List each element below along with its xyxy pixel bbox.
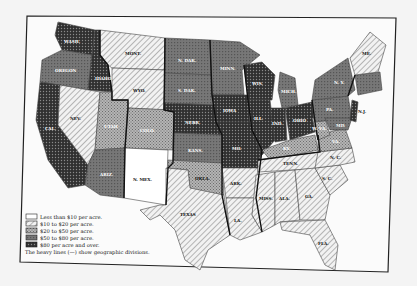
label-miss: MISS. (259, 196, 273, 201)
state-ndak[interactable] (165, 38, 212, 75)
label-tenn: TENN. (283, 161, 299, 166)
legend-swatch-c3 (26, 228, 37, 233)
label-sc: S. C. (322, 176, 333, 181)
label-nebr: NEBR. (185, 120, 201, 125)
label-va: VA. (331, 139, 340, 144)
legend-swatch-c1 (26, 214, 37, 219)
legend-note: The heavy lines (—) show geographic divi… (25, 249, 150, 256)
label-idaho: IDAHO (95, 76, 112, 81)
label-wva: W. VA. (311, 126, 327, 131)
label-iowa: IOWA (223, 108, 237, 113)
label-ind: IND. (272, 121, 283, 126)
legend-label-c4: $50 to $80 per acre. (40, 235, 94, 242)
label-fla: FLA. (318, 241, 329, 246)
legend-swatch-c5 (26, 242, 37, 247)
legend-label-c5: $80 per acre and over. (40, 242, 100, 249)
legend-label-c1: Less than $10 per acre. (40, 214, 103, 221)
label-wyo: WYO. (132, 88, 146, 93)
legend-label-c2: $10 to $20 per acre. (40, 221, 94, 228)
label-mont: MONT. (125, 51, 142, 56)
label-calif: CAL. (45, 126, 57, 131)
label-ny: N. Y. (334, 80, 345, 85)
label-wis: WIS. (251, 81, 264, 86)
label-mo: MO. (232, 146, 242, 151)
farmland-value-map: WASH. OREGON CAL. IDAHO NEV. UTAH ARIZ. … (0, 0, 417, 286)
label-md: MD. (336, 123, 346, 128)
label-ark: ARK. (229, 181, 242, 186)
label-nmex: N. MEX. (133, 177, 153, 182)
legend-swatch-c2 (26, 221, 37, 226)
label-kans: KANS. (188, 148, 203, 153)
label-nj: N.J. (358, 109, 367, 114)
label-pa: PA. (326, 107, 334, 112)
label-sdak: S. DAK. (178, 88, 196, 93)
label-ndak: N. DAK. (178, 58, 197, 63)
label-la: LA. (234, 218, 242, 223)
label-me: ME. (362, 51, 372, 56)
label-ky: KY. (283, 146, 291, 151)
label-colo: COLO. (140, 128, 155, 133)
label-ohio: OHIO (293, 118, 307, 123)
label-ga: GA. (305, 194, 314, 199)
label-mich: MICH. (281, 89, 297, 94)
label-oreg: OREGON (55, 68, 77, 73)
label-texas: TEXAS (180, 212, 196, 217)
label-ill: ILL. (254, 116, 264, 121)
label-wash: WASH. (63, 39, 81, 44)
legend-label-c3: $20 to $50 per acre. (40, 228, 94, 235)
label-utah: UTAH (104, 124, 118, 129)
label-minn: MINN. (220, 66, 236, 71)
label-okla: OKLA. (195, 176, 210, 181)
legend-swatch-c4 (26, 235, 37, 240)
label-ariz: ARIZ. (99, 172, 114, 177)
label-nev: NEV. (70, 116, 82, 121)
label-nc: N. C. (330, 155, 342, 160)
label-ala: ALA. (278, 196, 290, 201)
